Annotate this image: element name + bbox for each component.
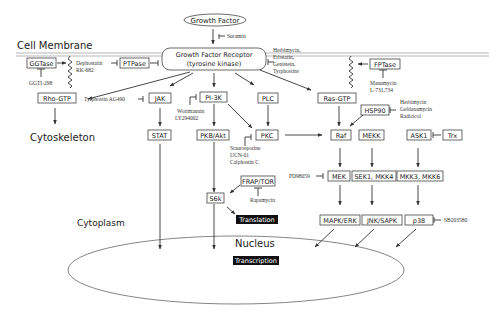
- node-mkk3-mkk6: MKK3, MKK6: [397, 171, 443, 181]
- inhibitor-sb203580: SB203580: [444, 217, 467, 223]
- svg-text:Calphostin C: Calphostin C: [230, 159, 259, 165]
- region-label-nucleus: Nucleus: [235, 238, 275, 249]
- node-pkc: PKC: [256, 130, 278, 140]
- inhibitor-ggti-298: GGTI-298: [29, 80, 52, 86]
- node-translation: Translation: [236, 215, 278, 224]
- svg-text:JAK: JAK: [154, 95, 166, 103]
- node-mek: MEK: [328, 171, 350, 181]
- inhibitor-ly294002: LY294002: [175, 115, 199, 121]
- node-ask1: ASK1: [407, 130, 431, 140]
- node-frap-tor: FRAP/TOR: [241, 176, 275, 186]
- inhibitor-l-731-734: L-731,734: [370, 87, 393, 93]
- inhibitor-rk-682: RK-682: [76, 67, 94, 73]
- svg-text:Ras-GTP: Ras-GTP: [323, 95, 350, 103]
- node-sek1-mkk4: SEK1, MKK4: [352, 171, 396, 181]
- node-transcription: Transcription: [233, 256, 279, 265]
- inhibitors-hsp90: Herbimycin Geldanamycin Radicicol: [400, 99, 432, 119]
- node-mapk-erk: MAPK/ERK: [320, 215, 360, 225]
- svg-text:Tyrphostins: Tyrphostins: [273, 68, 299, 74]
- node-mekk: MEKK: [359, 130, 384, 140]
- node-ras-gtp: Ras-GTP: [318, 93, 356, 103]
- node-s6k: S6k: [207, 193, 224, 203]
- node-rho-gtp: Rho-GTP: [38, 93, 76, 103]
- inhibitor-tyrphostin-ag490: Tyrphostin AG490: [84, 96, 125, 102]
- node-stat: STAT: [148, 130, 171, 140]
- node-growth-factor-receptor: Growth Factor Receptor (tyrosine kinase): [162, 48, 266, 70]
- svg-text:PKC: PKC: [261, 132, 274, 140]
- svg-text:JNK/SAPK: JNK/SAPK: [366, 217, 398, 225]
- node-ggtase: GGTase: [27, 58, 56, 68]
- region-label-cytoplasm: Cytoplasm: [77, 218, 125, 228]
- svg-text:HSP90: HSP90: [364, 107, 385, 115]
- node-raf: Raf: [331, 130, 351, 140]
- signaling-pathway-diagram: Cell Membrane Cytoskeleton Cytoplasm Nuc…: [0, 0, 489, 317]
- svg-text:Herbimycin: Herbimycin: [400, 99, 427, 105]
- svg-text:Radicicol: Radicicol: [400, 113, 422, 119]
- inhibitor-dephostatin: Dephostatin: [76, 60, 103, 66]
- svg-text:Herbimycin,: Herbimycin,: [273, 47, 301, 53]
- inhibitor-manumycin: Manumycin: [370, 80, 397, 86]
- node-jak: JAK: [149, 93, 171, 103]
- svg-text:Raf: Raf: [336, 132, 347, 140]
- svg-text:SEK1, MKK4: SEK1, MKK4: [354, 173, 393, 181]
- svg-text:MEK: MEK: [332, 173, 347, 181]
- svg-text:PKB/Akt: PKB/Akt: [200, 132, 226, 140]
- svg-text:FPTase: FPTase: [374, 61, 396, 69]
- svg-text:p38: p38: [413, 217, 425, 225]
- svg-text:UCN-01: UCN-01: [230, 152, 249, 158]
- svg-text:PI-3K: PI-3K: [205, 94, 222, 102]
- svg-text:Growth Factor: Growth Factor: [191, 17, 240, 25]
- svg-text:(tyrosine kinase): (tyrosine kinase): [187, 60, 241, 68]
- svg-text:PLC: PLC: [262, 95, 275, 103]
- node-pkb-akt: PKB/Akt: [197, 130, 229, 140]
- node-pi3k: PI-3K: [200, 92, 227, 102]
- svg-text:ASK1: ASK1: [411, 132, 428, 140]
- rho-lipid-anchor: [68, 56, 72, 88]
- region-label-cell-membrane: Cell Membrane: [17, 40, 92, 51]
- node-fptase: FPTase: [370, 59, 400, 69]
- node-trx: Trx: [443, 130, 462, 140]
- svg-text:Erbstatin,: Erbstatin,: [273, 54, 295, 60]
- svg-text:Rho-GTP: Rho-GTP: [43, 95, 71, 103]
- svg-text:MAPK/ERK: MAPK/ERK: [323, 217, 357, 225]
- svg-text:MEKK: MEKK: [362, 132, 381, 140]
- svg-text:Growth Factor Receptor: Growth Factor Receptor: [176, 51, 253, 59]
- node-jnk-sapk: JNK/SAPK: [362, 215, 402, 225]
- region-label-cytoskeleton: Cytoskeleton: [30, 132, 95, 143]
- ras-lipid-anchor: [349, 56, 353, 88]
- svg-text:STAT: STAT: [152, 132, 168, 140]
- node-ptpase: PTPase: [120, 58, 149, 68]
- inhibitor-suramin: Suramin: [227, 33, 246, 39]
- node-hsp90: HSP90: [361, 105, 389, 115]
- inhibitor-wortmannin: Wortmannin: [177, 108, 205, 114]
- node-p38: p38: [405, 215, 433, 225]
- svg-text:Geldanamycin: Geldanamycin: [400, 106, 432, 112]
- svg-text:S6k: S6k: [209, 195, 221, 203]
- svg-text:PTPase: PTPase: [123, 60, 146, 68]
- svg-text:MKK3, MKK6: MKK3, MKK6: [400, 173, 441, 181]
- inhibitors-pkc: Staurosporine UCN-01 Calphostin C: [230, 145, 261, 165]
- node-growth-factor: Growth Factor: [184, 14, 246, 26]
- svg-text:Translation: Translation: [238, 216, 274, 224]
- inhibitor-pd98059: PD98059: [289, 173, 310, 179]
- svg-text:GGTase: GGTase: [29, 60, 53, 68]
- svg-text:Staurosporine: Staurosporine: [230, 145, 261, 151]
- inhibitors-receptor: Herbimycin, Erbstatin, Genistein, Tyrpho…: [273, 47, 301, 74]
- inhibitor-rapamycin: Rapamycin: [250, 197, 275, 203]
- node-plc: PLC: [258, 93, 278, 103]
- svg-text:Transcription: Transcription: [234, 257, 277, 265]
- svg-text:FRAP/TOR: FRAP/TOR: [242, 178, 275, 186]
- svg-text:Trx: Trx: [447, 132, 458, 140]
- svg-text:Genistein,: Genistein,: [273, 61, 296, 67]
